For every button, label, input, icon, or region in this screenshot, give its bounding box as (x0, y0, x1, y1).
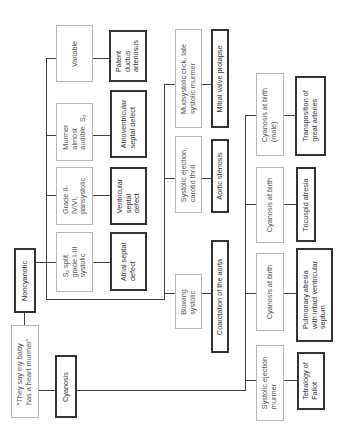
diagnosis-text: Aortic stenosis (216, 152, 225, 199)
branch-variable (46, 58, 56, 59)
link-pa (284, 293, 296, 294)
finding-text: Murmer almost audible, S₂ (62, 114, 88, 149)
finding-box-ta: Cyanosis at birth (256, 167, 284, 243)
branch-tga (245, 115, 256, 116)
finding-text: Mudsystolic click, late systolic murmer (180, 43, 197, 113)
finding-text: Cyanosis at birth (266, 265, 275, 319)
diagnosis-box-asd: Atrial septal defect (110, 232, 147, 291)
finding-text: Systolic ejection, carotid thrill (180, 147, 197, 201)
link-mvp (202, 84, 211, 85)
branch-aortic (164, 178, 175, 179)
diagnosis-box-ta: Tricuspid atresia (296, 167, 316, 242)
cyanosis-label: Cyanosis (62, 371, 71, 401)
branch-blowing (164, 293, 175, 294)
diagnosis-box-as: Aortic stenosis (211, 139, 229, 213)
bus-cyanosis (77, 390, 245, 391)
link-avsd (93, 135, 110, 136)
branch-mitral (164, 84, 175, 85)
finding-text: S₂ split, grade I-III systolic (62, 246, 88, 277)
finding-text: Variable (70, 40, 79, 66)
diagnosis-box-tof: Tetralogy of Fallot (297, 352, 325, 410)
diagnosis-text: Ventricular septal defect (116, 179, 142, 213)
link-pda (93, 58, 110, 59)
diagnosis-text: Patent ductus arteriosus (115, 40, 141, 72)
diagnosis-text: Atrial septal defect (120, 242, 137, 280)
link-asd (93, 262, 110, 263)
cyanosis-box: Cyanosis (55, 355, 77, 418)
link-tga (284, 115, 295, 116)
branch-murmer (46, 135, 56, 136)
diagnosis-box-pda: Patent ductus arteriosus (109, 30, 147, 82)
finding-box-vsd: Grade II- IV/VI, pansystolic (56, 167, 93, 225)
bus-cyanosis-vertical (245, 115, 246, 391)
finding-box-avsd: Murmer almost audible, S₂ (56, 103, 93, 161)
diagnosis-text: Tetralogy of Fallot (302, 362, 319, 400)
diagnosis-box-mvp: Mitral valve prolapse (211, 29, 229, 128)
finding-box-tof: Systolic ejection murmer (256, 345, 284, 421)
diagnosis-text: Mitral valve prolapse (216, 45, 225, 112)
finding-box-pda: Variable (56, 25, 93, 82)
finding-box-mvp: Mudsystolic click, late systolic murmer (175, 29, 202, 128)
noncyanotic-box: Noncyanotic (14, 248, 36, 313)
connector-root-cyanosis (38, 390, 55, 391)
diagnosis-box-avsd: Atrioventricular septal defect (110, 90, 147, 158)
finding-text: Blowing systolic (180, 289, 197, 315)
branch-sem (245, 380, 256, 381)
bus-noncyanotic-bottom (46, 299, 165, 300)
finding-text: Cyanosis at birth (266, 178, 275, 232)
branch-ta (245, 204, 256, 205)
link-coa (202, 293, 211, 294)
bus-noncyanotic-left (46, 58, 47, 300)
link-tof (284, 380, 297, 381)
finding-box-tga: Cyanosis at birth (male) (256, 73, 284, 156)
branch-grade (46, 195, 56, 196)
finding-text: Cyanosis at birth (male) (261, 87, 278, 141)
link-ta (284, 204, 296, 205)
diagnosis-box-vsd: Ventricular septal defect (110, 167, 147, 225)
root-complaint-box: “They say my baby has a heart murmer” (11, 325, 39, 418)
finding-box-asd: S₂ split, grade I-III systolic (56, 232, 93, 292)
diagnosis-text: Coarctation of the aorta (216, 258, 225, 334)
diagnosis-text: Transposition of great arteries (302, 90, 319, 142)
diagnosis-box-tga: Transposition of great arteries (295, 76, 326, 156)
diagnosis-box-pa: Pulmonary atresia with intact ventricula… (296, 248, 333, 342)
finding-text: Grade II- IV/VI, pansystolic (62, 178, 88, 214)
diagnosis-box-coa: Coarctation of the aorta (211, 240, 229, 353)
finding-box-pa: Cyanosis at birth (256, 253, 284, 331)
link-vsd (93, 195, 110, 196)
bus-noncyanotic-right (164, 84, 165, 300)
diagnosis-text: Pulmonary atresia with intact ventricula… (302, 261, 328, 329)
finding-box-as: Systolic ejection, carotid thrill (175, 136, 202, 213)
branch-pa (245, 293, 256, 294)
diagnosis-text: Tricuspid atresia (302, 178, 311, 231)
noncyanotic-label: Noncyanotic (21, 260, 30, 300)
root-complaint-text: “They say my baby has a heart murmer” (16, 338, 33, 404)
connector-root-noncyanotic (24, 312, 25, 326)
link-as (202, 178, 211, 179)
finding-text: Systolic ejection murmer (261, 357, 278, 409)
finding-box-coa: Blowing systolic (175, 274, 202, 329)
diagnosis-text: Atrioventricular septal defect (120, 100, 137, 149)
